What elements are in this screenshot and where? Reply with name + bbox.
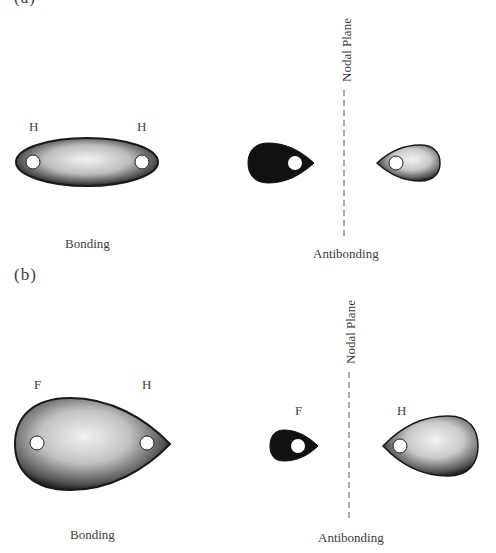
- panel-b-label: (b): [14, 266, 37, 283]
- h2-bonding-orbital: [16, 138, 158, 186]
- nucleus-f: [291, 439, 305, 453]
- hf-antibonding-light-lobe: [383, 416, 478, 476]
- atom-label-h-left: H: [29, 120, 38, 133]
- h2-antibonding-dark-lobe: [248, 143, 314, 183]
- nodal-plane-label-a: Nodal Plane: [340, 18, 353, 82]
- nucleus-h: [140, 436, 154, 450]
- antibonding-label-b: Antibonding: [318, 531, 384, 544]
- hf-antibonding-dark-lobe: [270, 430, 318, 461]
- hf-bonding-orbital: [15, 398, 170, 490]
- nucleus-h-left: [26, 155, 40, 169]
- atom-label-f-bonding: F: [34, 378, 41, 391]
- h2-antibonding-light-lobe: [377, 145, 440, 181]
- nucleus-h: [393, 439, 407, 453]
- bonding-label-a: Bonding: [65, 237, 110, 250]
- atom-label-h-antibonding: H: [397, 404, 406, 417]
- nodal-plane-label-b: Nodal Plane: [344, 300, 357, 364]
- bonding-label-b: Bonding: [70, 528, 115, 541]
- antibonding-label-a: Antibonding: [313, 247, 379, 260]
- nucleus-f: [30, 436, 44, 450]
- nucleus-h-right: [389, 156, 403, 170]
- atom-label-f-antibonding: F: [295, 404, 302, 417]
- nucleus-h-left: [288, 156, 302, 170]
- atom-label-h-bonding: H: [142, 378, 151, 391]
- nucleus-h-right: [135, 155, 149, 169]
- panel-a-label: (a): [14, 0, 36, 6]
- orbital-diagram: [0, 0, 496, 553]
- atom-label-h-right: H: [137, 120, 146, 133]
